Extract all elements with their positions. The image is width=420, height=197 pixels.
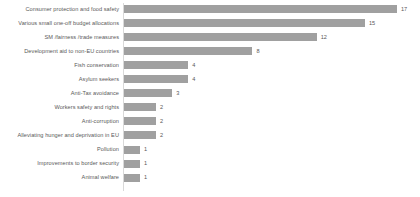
bar-value-label: 1: [144, 146, 147, 153]
bar-value-label: 2: [160, 118, 163, 125]
category-label: Anti-Tax avoidance: [0, 90, 119, 97]
bar[interactable]: [124, 160, 140, 168]
bar-container: 2: [124, 131, 163, 139]
bar-row: Workers safety and rights2: [0, 100, 420, 114]
bar-row: Anti-corruption2: [0, 114, 420, 128]
bar-container: 8: [124, 47, 260, 55]
bar-container: 2: [124, 117, 163, 125]
bar[interactable]: [124, 19, 365, 27]
category-label: Asylum seekers: [0, 76, 119, 83]
bar[interactable]: [124, 146, 140, 154]
bar[interactable]: [124, 33, 317, 41]
bar[interactable]: [124, 5, 397, 13]
category-label: Improvements to border security: [0, 160, 119, 167]
bar-container: 15: [124, 19, 375, 27]
bar-row: Alleviating hunger and deprivation in EU…: [0, 128, 420, 142]
bar-row: SM /fairness /trade measures12: [0, 30, 420, 44]
bar-container: 17: [124, 5, 407, 13]
category-label: Animal welfare: [0, 174, 119, 181]
bar-value-label: 4: [192, 76, 195, 83]
bar-row: Anti-Tax avoidance3: [0, 86, 420, 100]
category-label: Alleviating hunger and deprivation in EU: [0, 132, 119, 139]
category-label: Consumer protection and food safety: [0, 6, 119, 13]
bar-value-label: 15: [369, 20, 375, 27]
bar-value-label: 12: [321, 34, 327, 41]
bar-container: 1: [124, 146, 147, 154]
bar-container: 12: [124, 33, 327, 41]
bar-container: 2: [124, 103, 163, 111]
bar-container: 1: [124, 174, 147, 182]
bar-row: Animal welfare1: [0, 171, 420, 185]
bar-value-label: 17: [401, 6, 407, 13]
category-label: Workers safety and rights: [0, 104, 119, 111]
bar-value-label: 8: [256, 48, 259, 55]
bar-row: Asylum seekers4: [0, 72, 420, 86]
bar[interactable]: [124, 117, 156, 125]
bar-value-label: 2: [160, 132, 163, 139]
bar-container: 3: [124, 89, 179, 97]
bar[interactable]: [124, 131, 156, 139]
bar-row: Improvements to border security1: [0, 157, 420, 171]
category-label: Anti-corruption: [0, 118, 119, 125]
bar-row: Pollution1: [0, 143, 420, 157]
bar-container: 4: [124, 61, 195, 69]
category-label: Development aid to non-EU countries: [0, 48, 119, 55]
bar[interactable]: [124, 75, 188, 83]
bar-container: 4: [124, 75, 195, 83]
bar[interactable]: [124, 47, 252, 55]
bar-value-label: 2: [160, 104, 163, 111]
category-label: Pollution: [0, 146, 119, 153]
bar-row: Consumer protection and food safety17: [0, 2, 420, 16]
category-label: SM /fairness /trade measures: [0, 34, 119, 41]
bar[interactable]: [124, 174, 140, 182]
bar-row: Development aid to non-EU countries8: [0, 44, 420, 58]
bar[interactable]: [124, 103, 156, 111]
bar-chart: Consumer protection and food safety17Var…: [0, 0, 420, 197]
plot-area: Consumer protection and food safety17Var…: [0, 0, 420, 197]
bar[interactable]: [124, 89, 172, 97]
bar-container: 1: [124, 160, 147, 168]
bar-row: Fish conservation4: [0, 58, 420, 72]
bar[interactable]: [124, 61, 188, 69]
bar-value-label: 4: [192, 62, 195, 69]
bar-value-label: 1: [144, 174, 147, 181]
category-label: Various small one-off budget allocations: [0, 20, 119, 27]
bar-row: Various small one-off budget allocations…: [0, 16, 420, 30]
category-label: Fish conservation: [0, 62, 119, 69]
bar-value-label: 1: [144, 160, 147, 167]
bar-value-label: 3: [176, 90, 179, 97]
